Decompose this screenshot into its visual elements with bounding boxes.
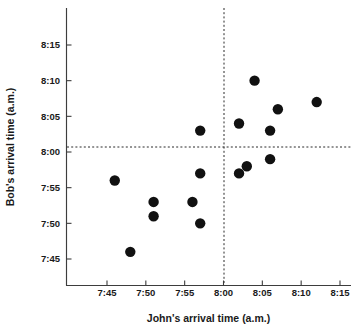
x-axis-title: John's arrival time (a.m.): [147, 312, 270, 324]
scatter-plot-figure: 7:457:507:558:008:058:108:15 7:457:507:5…: [0, 0, 361, 332]
data-point: [265, 125, 275, 135]
data-point: [234, 168, 244, 178]
y-axis-title: Bob's arrival time (a.m.): [4, 88, 16, 207]
data-point: [195, 125, 205, 135]
y-tick-label: 8:15: [41, 39, 61, 50]
y-axis-ticks: [67, 45, 72, 259]
y-tick-label: 7:55: [41, 182, 61, 193]
data-point: [110, 175, 120, 185]
x-tick-label: 8:05: [253, 287, 273, 298]
y-tick-label: 8:00: [41, 146, 60, 157]
x-tick-label: 7:55: [175, 287, 195, 298]
data-point: [312, 97, 322, 107]
plot-canvas: 7:457:507:558:008:058:108:15 7:457:507:5…: [0, 0, 361, 332]
data-point-series: [110, 75, 322, 257]
x-axis-ticks: [107, 281, 340, 286]
data-point: [242, 161, 252, 171]
x-axis-tick-labels: 7:457:507:558:008:058:108:15: [97, 287, 350, 298]
data-point: [249, 75, 259, 85]
data-point: [148, 197, 158, 207]
x-tick-label: 8:10: [292, 287, 311, 298]
y-tick-label: 7:50: [41, 218, 60, 229]
x-tick-label: 8:00: [214, 287, 233, 298]
data-point: [125, 247, 135, 257]
x-tick-label: 7:50: [136, 287, 155, 298]
data-point: [187, 197, 197, 207]
data-point: [273, 104, 283, 114]
x-tick-label: 7:45: [97, 287, 117, 298]
data-point: [195, 218, 205, 228]
y-tick-label: 8:05: [41, 111, 61, 122]
data-point: [265, 154, 275, 164]
y-tick-label: 8:10: [41, 75, 60, 86]
data-point: [195, 168, 205, 178]
y-axis-tick-labels: 7:457:507:558:008:058:108:15: [41, 39, 61, 264]
y-tick-label: 7:45: [41, 253, 61, 264]
x-tick-label: 8:15: [330, 287, 350, 298]
data-point: [148, 211, 158, 221]
data-point: [234, 118, 244, 128]
